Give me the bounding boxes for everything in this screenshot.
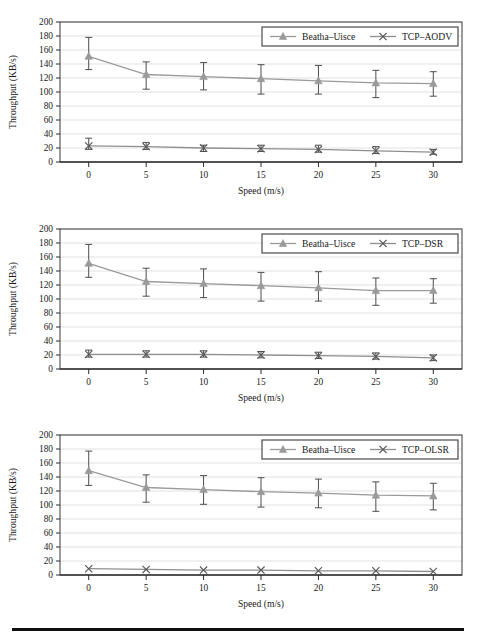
y-tick-label: 180 — [39, 31, 53, 41]
legend-label-tcp: TCP–OLSR — [402, 444, 450, 455]
y-axis-title: Throughput (KB/s) — [7, 262, 19, 336]
x-tick-label: 5 — [144, 377, 149, 387]
legend: Beatha–UisceTCP–AODV — [262, 27, 458, 46]
x-tick-label: 25 — [371, 170, 381, 180]
x-tick-label: 20 — [314, 377, 324, 387]
marker-triangle — [85, 259, 93, 266]
x-tick-label: 25 — [371, 583, 381, 593]
legend: Beatha–UisceTCP–DSR — [262, 234, 458, 253]
data-series — [85, 350, 437, 361]
y-tick-label: 40 — [44, 542, 54, 552]
y-axis: 020406080100120140160180200 — [39, 430, 60, 580]
y-tick-label: 0 — [48, 157, 53, 167]
series-markers — [85, 565, 437, 575]
y-tick-label: 100 — [39, 294, 53, 304]
chart-panel-dsr: 020406080100120140160180200Throughput (K… — [0, 211, 477, 417]
series-markers — [85, 142, 437, 156]
y-axis-title: Throughput (KB/s) — [7, 468, 19, 542]
x-tick-label: 30 — [429, 377, 439, 387]
figure-page: 020406080100120140160180200Throughput (K… — [0, 0, 477, 642]
x-tick-label: 10 — [199, 170, 209, 180]
legend-label-beatha: Beatha–Uisce — [302, 31, 355, 42]
y-tick-label: 80 — [44, 101, 54, 111]
y-tick-label: 80 — [44, 514, 54, 524]
y-tick-label: 200 — [39, 17, 53, 27]
x-tick-label: 10 — [199, 583, 209, 593]
y-tick-label: 20 — [44, 350, 54, 360]
chart-panel-aodv: 020406080100120140160180200Throughput (K… — [0, 4, 477, 210]
y-tick-label: 120 — [39, 73, 53, 83]
x-tick-label: 5 — [144, 170, 149, 180]
chart-svg: 020406080100120140160180200Throughput (K… — [0, 4, 477, 210]
y-tick-label: 200 — [39, 430, 53, 440]
y-tick-label: 0 — [48, 570, 53, 580]
y-tick-label: 100 — [39, 87, 53, 97]
y-tick-label: 0 — [48, 364, 53, 374]
x-tick-label: 0 — [86, 583, 91, 593]
marker-triangle — [85, 52, 93, 59]
bottom-divider-rule — [12, 628, 464, 631]
x-axis: 051015202530 — [60, 162, 462, 180]
x-tick-label: 10 — [199, 377, 209, 387]
marker-triangle — [85, 467, 93, 474]
y-tick-label: 180 — [39, 444, 53, 454]
x-tick-label: 15 — [256, 583, 266, 593]
data-series — [85, 138, 437, 156]
y-tick-label: 40 — [44, 336, 54, 346]
x-axis-title: Speed (m/s) — [238, 392, 284, 404]
x-tick-label: 0 — [86, 377, 91, 387]
legend-label-beatha: Beatha–Uisce — [302, 444, 355, 455]
x-tick-label: 20 — [314, 583, 324, 593]
y-tick-label: 140 — [39, 59, 53, 69]
x-tick-label: 15 — [256, 377, 266, 387]
y-tick-label: 120 — [39, 486, 53, 496]
y-tick-label: 40 — [44, 129, 54, 139]
y-tick-label: 160 — [39, 252, 53, 262]
chart-svg: 020406080100120140160180200Throughput (K… — [0, 417, 477, 623]
y-axis: 020406080100120140160180200 — [39, 224, 60, 374]
x-tick-label: 20 — [314, 170, 324, 180]
y-tick-label: 200 — [39, 224, 53, 234]
x-tick-label: 25 — [371, 377, 381, 387]
x-axis: 051015202530 — [60, 575, 462, 593]
y-tick-label: 140 — [39, 266, 53, 276]
error-bars — [85, 451, 437, 511]
legend-label-tcp: TCP–DSR — [402, 238, 444, 249]
chart-panel-olsr: 020406080100120140160180200Throughput (K… — [0, 417, 477, 623]
y-tick-label: 20 — [44, 143, 54, 153]
y-axis-title: Throughput (KB/s) — [7, 55, 19, 129]
y-tick-label: 140 — [39, 472, 53, 482]
x-tick-label: 30 — [429, 170, 439, 180]
x-axis: 051015202530 — [60, 369, 462, 387]
x-axis-title: Speed (m/s) — [238, 598, 284, 610]
legend-label-beatha: Beatha–Uisce — [302, 238, 355, 249]
y-tick-label: 160 — [39, 458, 53, 468]
y-tick-label: 160 — [39, 45, 53, 55]
y-tick-label: 60 — [44, 528, 54, 538]
x-tick-label: 30 — [429, 583, 439, 593]
y-tick-label: 120 — [39, 280, 53, 290]
y-tick-label: 60 — [44, 322, 54, 332]
y-tick-label: 20 — [44, 556, 54, 566]
x-axis-title: Speed (m/s) — [238, 185, 284, 197]
x-tick-label: 15 — [256, 170, 266, 180]
y-tick-label: 180 — [39, 238, 53, 248]
data-series — [85, 565, 437, 575]
chart-svg: 020406080100120140160180200Throughput (K… — [0, 211, 477, 417]
y-tick-label: 80 — [44, 308, 54, 318]
data-series — [85, 451, 437, 511]
legend: Beatha–UisceTCP–OLSR — [262, 440, 458, 459]
y-tick-label: 100 — [39, 500, 53, 510]
x-tick-label: 0 — [86, 170, 91, 180]
legend-label-tcp: TCP–AODV — [402, 31, 452, 42]
y-tick-label: 60 — [44, 115, 54, 125]
y-axis: 020406080100120140160180200 — [39, 17, 60, 167]
x-tick-label: 5 — [144, 583, 149, 593]
